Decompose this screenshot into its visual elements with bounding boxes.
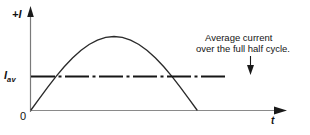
x-axis-label: t	[271, 115, 274, 127]
annotation-text: Average current over the full half cycle…	[205, 33, 290, 55]
origin-label: 0	[20, 110, 26, 123]
half-sine-wave-curve	[31, 37, 197, 111]
average-current-subscript: av	[7, 75, 16, 84]
annotation-line-2: over the full half cycle.	[196, 44, 290, 55]
callout-arrow-group	[247, 56, 254, 75]
arrow-down-icon	[247, 65, 254, 75]
y-axis	[27, 6, 34, 112]
figure-container: +I 0 t Iav Average current over the full…	[0, 0, 310, 135]
arrow-right-icon	[274, 107, 287, 115]
x-axis	[30, 107, 287, 115]
y-axis-label: +I	[12, 8, 21, 21]
arrow-up-icon	[27, 6, 34, 17]
average-current-axis-label: Iav	[4, 69, 16, 85]
plot-canvas	[0, 0, 310, 135]
